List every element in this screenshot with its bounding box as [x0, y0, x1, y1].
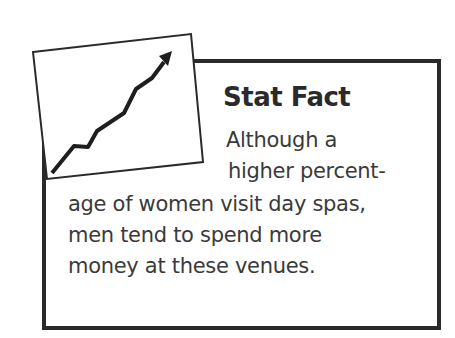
stat-text-line-5: money at these venues.	[68, 254, 315, 278]
stat-text-line-2: higher percent-	[228, 159, 386, 183]
stat-text-line-1: Although a	[226, 128, 337, 152]
stat-fact-title: Stat Fact	[223, 82, 350, 112]
stat-text-line-3: age of women visit day spas,	[68, 192, 366, 216]
stat-text-line-4: men tend to spend more	[68, 223, 322, 247]
